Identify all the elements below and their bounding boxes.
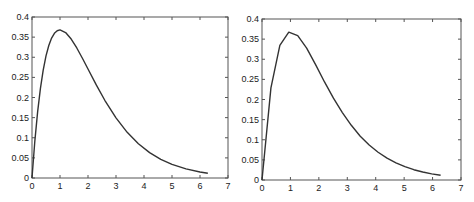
x-tick-label: 5 <box>169 181 174 191</box>
x-tick-label: 6 <box>430 183 435 193</box>
y-tick-label: 0.05 <box>241 155 259 165</box>
axes-box <box>262 19 461 180</box>
x-tick-label: 3 <box>345 183 350 193</box>
y-tick-label: 0.3 <box>16 52 29 62</box>
y-tick-label: 0 <box>254 175 259 185</box>
y-tick-label: 0.1 <box>246 135 259 145</box>
y-tick-label: 0.4 <box>16 12 29 22</box>
x-tick-label: 4 <box>141 181 146 191</box>
x-tick-label: 0 <box>259 183 264 193</box>
y-tick-label: 0 <box>24 173 29 183</box>
y-tick-label: 0.4 <box>246 14 259 24</box>
figure: 0123456700.050.10.150.20.250.30.350.4 01… <box>0 0 474 202</box>
y-tick-label: 0.35 <box>241 34 259 44</box>
y-tick-label: 0.2 <box>246 95 259 105</box>
y-tick-label: 0.1 <box>16 133 29 143</box>
x-tick-label: 6 <box>197 181 202 191</box>
y-tick-label: 0.25 <box>241 74 259 84</box>
left-chart: 0123456700.050.10.150.20.250.30.350.4 <box>11 12 230 191</box>
y-tick-label: 0.2 <box>16 93 29 103</box>
x-tick-label: 4 <box>373 183 378 193</box>
x-tick-label: 5 <box>402 183 407 193</box>
x-tick-label: 1 <box>57 181 62 191</box>
x-tick-label: 2 <box>316 183 321 193</box>
y-tick-label: 0.05 <box>11 153 29 163</box>
x-tick-label: 2 <box>85 181 90 191</box>
series-line <box>262 32 441 180</box>
x-tick-label: 0 <box>29 181 34 191</box>
y-tick-label: 0.35 <box>11 32 29 42</box>
x-tick-label: 7 <box>458 183 463 193</box>
x-tick-label: 7 <box>225 181 230 191</box>
x-tick-label: 1 <box>288 183 293 193</box>
y-tick-label: 0.15 <box>241 115 259 125</box>
y-tick-label: 0.3 <box>246 54 259 64</box>
right-chart: 0123456700.050.10.150.20.250.30.350.4 <box>241 14 463 193</box>
y-tick-label: 0.25 <box>11 72 29 82</box>
x-tick-label: 3 <box>113 181 118 191</box>
series-line <box>32 30 208 178</box>
y-tick-label: 0.15 <box>11 113 29 123</box>
axes-box <box>32 17 228 178</box>
